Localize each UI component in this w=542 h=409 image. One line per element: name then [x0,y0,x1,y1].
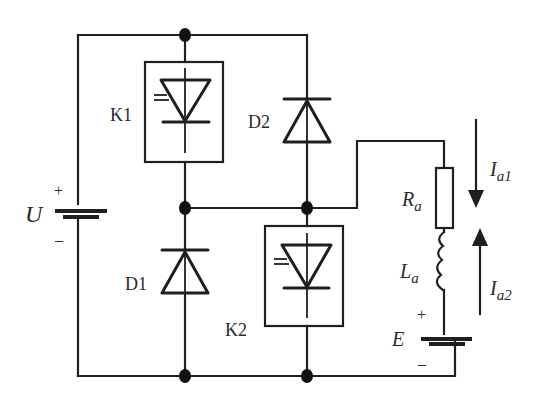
wires [78,35,455,376]
circuit-diagram: U + – K1 K2 D2 [0,0,542,409]
node-mid-right [301,201,313,215]
resistor-ra: Ra [401,168,453,228]
resistor-icon [436,168,453,228]
switch-k2: K2 [225,226,343,340]
inductor-la: La [399,232,444,290]
current-ia1-label: Ia1 [489,158,512,184]
diode-d1: D1 [125,250,208,294]
thyristor-icon [154,68,210,153]
switch-k1: K1 [110,62,223,162]
emf-minus: – [417,355,427,372]
bottom-rail-wire [78,346,455,376]
source-minus: – [54,231,64,248]
emf-source-e: E + – [391,306,472,372]
resistor-label: Ra [401,188,422,214]
arrowhead-up-icon [472,228,488,246]
k2-label: K2 [225,320,247,340]
source-plus: + [54,182,63,199]
emf-plus: + [417,306,426,323]
node-bottom-right [301,369,313,383]
k2-box [265,226,343,326]
node-mid-left [179,201,191,215]
node-bottom-left [179,369,191,383]
d1-label: D1 [125,274,147,294]
emf-label: E [391,328,404,350]
dc-source-u: U + – [25,182,107,248]
inductor-coil [437,232,444,290]
k1-box [145,62,223,162]
source-label: U [25,201,44,227]
current-ia2: Ia2 [472,228,512,314]
arrowhead-down-icon [468,190,484,208]
k1-label: K1 [110,105,132,125]
current-ia2-label: Ia2 [489,277,512,303]
thyristor-icon [274,233,331,318]
diode-d2: D2 [248,99,330,142]
d2-label: D2 [248,112,270,132]
current-ia1: Ia1 [468,120,512,208]
node-top [179,28,191,42]
inductor-label: La [399,260,419,286]
